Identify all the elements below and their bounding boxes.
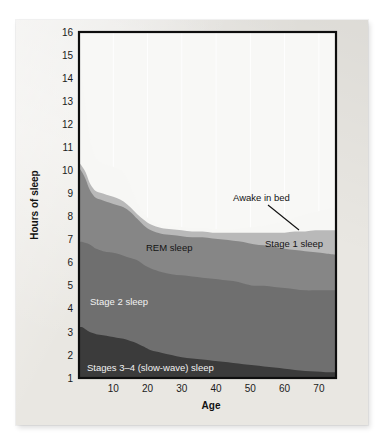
x-tick-20: 20 <box>142 383 154 394</box>
y-tick-10: 10 <box>62 165 74 176</box>
x-tick-50: 50 <box>245 383 257 394</box>
y-axis-title: Hours of sleep <box>29 170 40 239</box>
x-tick-30: 30 <box>176 383 188 394</box>
x-axis-title: Age <box>202 400 221 411</box>
label-stage-1-sleep: Stage 1 sleep <box>265 238 323 249</box>
x-axis-ticks: 10203040506070 <box>108 383 325 394</box>
x-tick-60: 60 <box>279 383 291 394</box>
x-tick-40: 40 <box>211 383 223 394</box>
figure-root: 12345678910111213141516 10203040506070 H… <box>0 0 386 443</box>
label-awake-in-bed: Awake in bed <box>233 192 290 203</box>
y-tick-6: 6 <box>67 257 73 268</box>
label-stage-2-sleep: Stage 2 sleep <box>90 296 148 307</box>
label-slow-wave-sleep: Stages 3–4 (slow-wave) sleep <box>87 362 214 373</box>
y-tick-2: 2 <box>67 350 73 361</box>
y-tick-15: 15 <box>62 50 74 61</box>
x-tick-70: 70 <box>313 383 325 394</box>
y-tick-3: 3 <box>67 327 73 338</box>
y-tick-5: 5 <box>67 280 73 291</box>
y-tick-14: 14 <box>62 73 74 84</box>
y-tick-4: 4 <box>67 303 73 314</box>
y-tick-8: 8 <box>67 211 73 222</box>
sleep-stages-chart: 12345678910111213141516 10203040506070 H… <box>0 0 386 443</box>
y-tick-13: 13 <box>62 96 74 107</box>
y-axis-ticks: 12345678910111213141516 <box>62 27 74 384</box>
y-tick-16: 16 <box>62 27 74 38</box>
label-rem-sleep: REM sleep <box>146 242 192 253</box>
y-tick-11: 11 <box>63 142 74 153</box>
y-tick-1: 1 <box>67 373 73 384</box>
y-tick-12: 12 <box>62 119 74 130</box>
y-tick-9: 9 <box>67 188 73 199</box>
y-tick-7: 7 <box>67 234 73 245</box>
x-tick-10: 10 <box>108 383 120 394</box>
